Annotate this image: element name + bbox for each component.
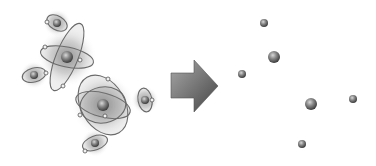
atom-left-small (20, 61, 48, 89)
right-arrow-icon (171, 60, 218, 112)
atoms-with-orbits-group (20, 9, 159, 157)
atom-right-small (131, 86, 159, 114)
electron-dot (103, 114, 107, 118)
electron-dot (43, 45, 47, 49)
nucleus-sphere (30, 71, 38, 79)
bare-nucleus-sphere (268, 51, 280, 63)
bare-nucleus-sphere (238, 70, 246, 78)
bare-nucleus-sphere (298, 140, 306, 148)
electron-dot (78, 58, 82, 62)
nucleus-sphere (97, 99, 109, 111)
electron-dot (83, 149, 87, 153)
electron-dot (150, 98, 154, 102)
electron-dot (61, 84, 65, 88)
nucleus-sphere (141, 96, 149, 104)
electron-dot (44, 71, 48, 75)
nucleus-sphere (61, 51, 73, 63)
electron-dot (78, 113, 82, 117)
bare-nucleus-sphere (305, 98, 317, 110)
electron-dot (106, 77, 110, 81)
nucleus-sphere (53, 19, 61, 27)
bare-nucleus-sphere (349, 95, 357, 103)
atoms-to-nuclei-diagram (0, 0, 376, 166)
bare-nucleus-sphere (260, 19, 268, 27)
electron-dot (45, 20, 49, 24)
bare-nuclei-group (238, 19, 357, 148)
nucleus-sphere (91, 139, 99, 147)
diagram-canvas (0, 0, 376, 166)
